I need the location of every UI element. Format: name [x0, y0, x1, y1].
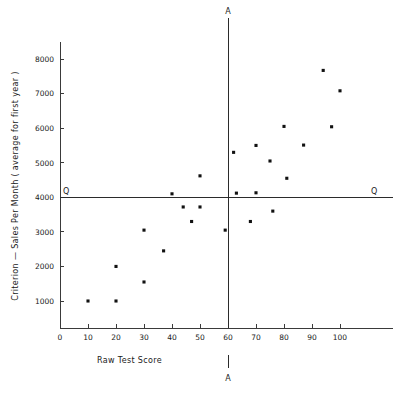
- data-point: [249, 220, 252, 223]
- data-point: [330, 125, 333, 128]
- x-tick-label-30: 30: [139, 333, 149, 342]
- data-point: [142, 229, 145, 232]
- scatter-plot-canvas: 10002000300040005000600070008000 0102030…: [0, 0, 401, 393]
- y-tick-label-1000: 1000: [35, 297, 54, 306]
- x-tick-label-100: 100: [333, 333, 348, 342]
- data-point: [322, 69, 325, 72]
- data-point: [282, 125, 285, 128]
- data-point: [285, 177, 288, 180]
- data-point: [182, 205, 185, 208]
- y-tick-label-8000: 8000: [35, 55, 54, 64]
- data-point: [338, 89, 341, 92]
- q-label-left: Q: [63, 187, 69, 196]
- y-tick-label-4000: 4000: [35, 193, 54, 202]
- x-tick-label-70: 70: [251, 333, 261, 342]
- data-point: [198, 205, 201, 208]
- y-tick-label-2000: 2000: [35, 262, 54, 271]
- data-point: [254, 191, 257, 194]
- y-tick-label-7000: 7000: [35, 89, 54, 98]
- x-tick-label-90: 90: [307, 333, 317, 342]
- data-point: [232, 151, 235, 154]
- a-label-bottom: A: [225, 374, 231, 383]
- data-point: [190, 220, 193, 223]
- y-tick-label-5000: 5000: [35, 159, 54, 168]
- x-tick-label-50: 50: [195, 333, 205, 342]
- x-tick-label-10: 10: [83, 333, 93, 342]
- data-point: [271, 210, 274, 213]
- x-tick-label-40: 40: [167, 333, 177, 342]
- data-point: [162, 249, 165, 252]
- data-point: [114, 299, 117, 302]
- x-tick-label-60: 60: [223, 333, 233, 342]
- data-point: [254, 144, 257, 147]
- x-tick-label-20: 20: [111, 333, 121, 342]
- a-label-top: A: [225, 7, 231, 16]
- data-point: [114, 265, 117, 268]
- data-point: [302, 144, 305, 147]
- data-point: [224, 229, 227, 232]
- scatter-plot-figure: 10002000300040005000600070008000 0102030…: [0, 0, 401, 393]
- x-axis-title: Raw Test Score: [97, 356, 162, 365]
- x-tick-label-0: 0: [58, 333, 63, 342]
- y-tick-label-6000: 6000: [35, 124, 54, 133]
- x-tick-label-80: 80: [279, 333, 289, 342]
- data-point: [170, 192, 173, 195]
- data-point: [235, 192, 238, 195]
- q-label-right: Q: [371, 187, 377, 196]
- data-point: [268, 159, 271, 162]
- y-tick-label-3000: 3000: [35, 228, 54, 237]
- data-point: [86, 299, 89, 302]
- data-point: [142, 280, 145, 283]
- y-axis-title: Criterion — Sales Per Month ( average fo…: [11, 71, 20, 301]
- data-point: [198, 174, 201, 177]
